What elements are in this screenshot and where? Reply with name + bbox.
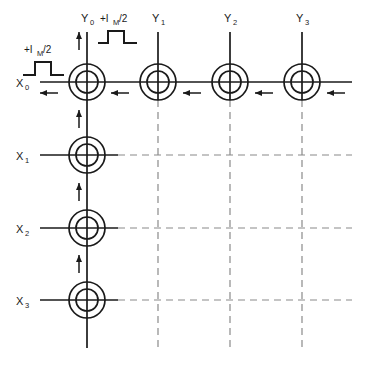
row-label-x0-text: X — [16, 77, 24, 89]
current-arrow-left-1 — [40, 90, 58, 96]
column-label-y1-text: Y — [152, 12, 160, 24]
row-label-x1-text: X — [16, 150, 24, 162]
pulse-label-group: +I M /2 +I M /2 — [24, 13, 128, 58]
row-label-x3-subscript: 3 — [25, 301, 29, 310]
column-label-y2-subscript: 2 — [233, 18, 237, 27]
current-arrow-up-2 — [76, 183, 82, 201]
core-matrix-svg: X 0 X 1 X 2 X 3 Y 0 Y 1 Y 2 Y 3 +I M /2 … — [0, 0, 366, 368]
current-arrow-left-3 — [183, 90, 201, 96]
column-label-y3-subscript: 3 — [305, 18, 309, 27]
row-label-x2-subscript: 2 — [25, 229, 29, 238]
y-drive-pulse-waveform — [98, 31, 137, 43]
current-arrow-left-2 — [111, 90, 129, 96]
y-pulse-label-prefix: +I — [100, 13, 109, 24]
row-label-x0-subscript: 0 — [25, 83, 29, 92]
column-label-y0-subscript: 0 — [90, 18, 94, 27]
row-label-x3-text: X — [16, 295, 24, 307]
x-pulse-label-suffix: /2 — [43, 44, 52, 55]
x-pulse-label-prefix: +I — [24, 44, 33, 55]
column-label-y2-text: Y — [224, 12, 232, 24]
row-label-x2-text: X — [16, 223, 24, 235]
y-pulse-label-suffix: /2 — [119, 13, 128, 24]
current-arrow-left-4 — [255, 90, 273, 96]
core-memory-diagram: X 0 X 1 X 2 X 3 Y 0 Y 1 Y 2 Y 3 +I M /2 … — [0, 0, 366, 368]
column-label-y1-subscript: 1 — [161, 18, 165, 27]
column-label-y3-text: Y — [296, 12, 304, 24]
current-arrow-up-3 — [76, 255, 82, 273]
current-arrow-up-1 — [76, 110, 82, 128]
row-label-group: X 0 X 1 X 2 X 3 — [16, 77, 29, 310]
current-arrow-up-top — [76, 32, 82, 50]
row-label-x1-subscript: 1 — [25, 156, 29, 165]
x-drive-pulse-waveform — [23, 62, 64, 75]
current-arrow-left-5 — [327, 90, 345, 96]
column-label-y0-text: Y — [81, 12, 89, 24]
